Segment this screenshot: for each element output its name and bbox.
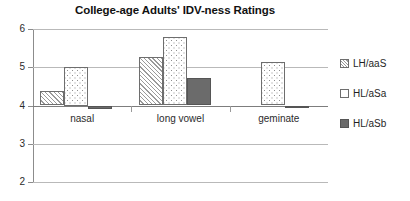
category-label-nasal: nasal <box>33 113 131 124</box>
y-tick-mark-6 <box>28 29 33 30</box>
gridline-3 <box>33 144 328 145</box>
gridline-6 <box>33 29 328 30</box>
y-tick-label-2: 2 <box>8 177 25 187</box>
gridline-2 <box>33 182 328 183</box>
bar-long-vowel-HL-aSb <box>187 78 211 106</box>
y-tick-label-5: 5 <box>8 62 25 72</box>
y-tick-mark-3 <box>28 144 33 145</box>
legend-item-LH-aaS[interactable]: LH/aaS <box>340 58 386 69</box>
bar-long-vowel-HL-aSa <box>163 37 187 105</box>
bar-chart: College-age Adults' IDV-ness Ratings 654… <box>0 0 410 201</box>
legend-label: HL/aSb <box>353 118 386 129</box>
bar-nasal-HL-aSb <box>88 106 112 110</box>
legend-swatch-icon-2 <box>340 119 349 128</box>
legend-swatch-icon-0 <box>340 59 349 68</box>
bar-geminate-HL-aSa <box>261 62 285 106</box>
bar-geminate-HL-aSb <box>285 106 309 108</box>
category-label-long-vowel: long vowel <box>131 113 229 124</box>
y-tick-mark-5 <box>28 67 33 68</box>
y-tick-mark-2 <box>28 182 33 183</box>
chart-title: College-age Adults' IDV-ness Ratings <box>0 4 350 16</box>
legend-item-HL-aSb[interactable]: HL/aSb <box>340 118 386 129</box>
legend-item-HL-aSa[interactable]: HL/aSa <box>340 88 386 99</box>
plot-area <box>33 29 328 182</box>
bar-nasal-LH-aaS <box>40 91 64 106</box>
y-tick-label-3: 3 <box>8 139 25 149</box>
bar-long-vowel-LH-aaS <box>139 57 163 106</box>
y-tick-label-6: 6 <box>8 24 25 34</box>
category-separator-1 <box>131 106 132 112</box>
category-label-geminate: geminate <box>230 113 328 124</box>
legend-label: LH/aaS <box>353 58 386 69</box>
y-tick-label-4: 4 <box>8 101 25 111</box>
category-separator-2 <box>230 106 231 112</box>
legend-swatch-icon-1 <box>340 89 349 98</box>
y-tick-mark-4 <box>28 106 33 107</box>
legend-label: HL/aSa <box>353 88 386 99</box>
gridline-4 <box>33 106 328 107</box>
bar-nasal-HL-aSa <box>64 67 88 105</box>
